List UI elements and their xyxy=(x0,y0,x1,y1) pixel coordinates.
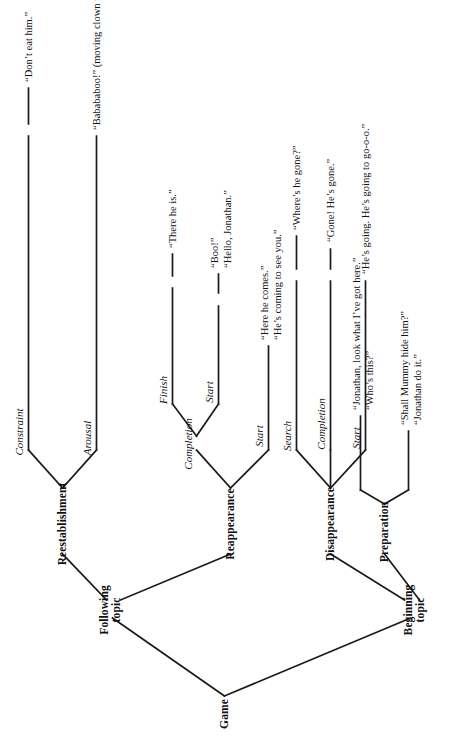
subcategory-reestablishment-arousal: Arousal xyxy=(81,421,93,455)
subcategory-disappearance-search: Search xyxy=(281,421,293,451)
node-preparation: Preparation xyxy=(378,502,390,562)
subcategory-reappearance-completion: Completion xyxy=(182,418,194,469)
utterance-disappearance-completion: “Gone! He’s gone.” xyxy=(324,159,335,242)
utterance-preparation-b-line2: “Jonathan do it.” xyxy=(411,311,424,425)
utterance-reestablishment-arousal: “Babababoo!” (moving clown to his belly) xyxy=(90,0,101,130)
node-game: Game xyxy=(218,699,230,729)
utterance-preparation-a-line1: “Jonathan, look what I’ve got here.” xyxy=(350,258,363,411)
subcategory-reappearance-completion-finish: Finish xyxy=(157,376,169,404)
node-beginning-topic-line2: topic xyxy=(414,598,426,623)
subcategory-reappearance-start: Start xyxy=(253,425,265,446)
subcategory-disappearance-start: Start xyxy=(350,427,362,448)
utterance-preparation-b: “Shall Mummy hide him?” “Jonathan do it.… xyxy=(398,311,424,425)
diagram-rotation-wrapper: Game Beginning topic Following topic Pre… xyxy=(0,0,449,736)
utterance-reappearance-completion-start-line2: “Hello, Jonathan.” xyxy=(221,190,234,268)
node-reestablishment: Reestablishment xyxy=(56,483,68,566)
utterance-preparation-b-line1: “Shall Mummy hide him?” xyxy=(398,311,411,425)
utterance-disappearance-search: “Where’s he gone?” xyxy=(290,145,301,230)
edge-root-to-following-topic xyxy=(112,618,224,696)
node-reappearance: Reappearance xyxy=(224,488,236,559)
game-structure-tree-diagram: Game Beginning topic Following topic Pre… xyxy=(0,0,449,736)
node-following-topic-line2: topic xyxy=(110,598,122,623)
utterance-reappearance-start: “Here he comes.” “He’s coming to see you… xyxy=(258,229,284,340)
utterance-reappearance-completion-start: “Boo!” “Hello, Jonathan.” xyxy=(208,190,234,268)
edge-following-to-reappearance xyxy=(120,554,230,600)
subcategory-reappearance-completion-start: Start xyxy=(203,381,215,402)
utterance-preparation-a-line2: “Who’s this?” xyxy=(363,258,376,411)
edge-disappearance-to-search xyxy=(296,450,330,488)
utterance-reappearance-start-line1: “Here he comes.” xyxy=(258,229,271,340)
node-following-topic-line1: Following xyxy=(98,585,110,634)
node-following-topic: Following topic xyxy=(98,578,123,642)
node-beginning-topic: Beginning topic xyxy=(402,578,427,642)
edge-reappearance-to-completion xyxy=(196,450,230,488)
node-disappearance: Disappearance xyxy=(324,487,336,561)
edge-reappearance-to-start xyxy=(230,450,268,488)
utterance-reappearance-completion-finish: “There he is.” xyxy=(166,189,177,248)
utterance-preparation-a: “Jonathan, look what I’ve got here.” “Wh… xyxy=(350,258,376,411)
edge-completion-to-start xyxy=(196,404,218,436)
edge-beginning-to-disappearance xyxy=(330,554,404,600)
utterance-disappearance-start: “He’s going. He’s going to go-o-o.” xyxy=(359,124,370,274)
subcategory-reestablishment-constraint: Constraint xyxy=(13,408,25,455)
utterance-reappearance-completion-start-line1: “Boo!” xyxy=(208,190,221,268)
utterance-reappearance-start-line2: “He’s coming to see you.” xyxy=(271,229,284,340)
tree-edges xyxy=(0,0,449,736)
node-beginning-topic-line1: Beginning xyxy=(402,585,414,636)
utterance-reestablishment-constraint: “Don’t eat him.” xyxy=(22,12,33,82)
subcategory-disappearance-completion: Completion xyxy=(315,398,327,449)
edge-root-to-beginning-topic xyxy=(224,618,410,696)
